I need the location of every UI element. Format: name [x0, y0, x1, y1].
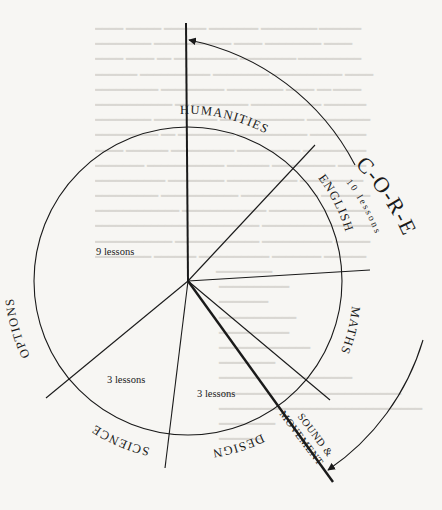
segment-label-sound-movement: SOUND & MOVEMENT — [277, 401, 336, 468]
core-arc-bottom — [328, 340, 423, 470]
divider-line-maths-sound — [188, 281, 330, 400]
divider-line-english-maths — [188, 270, 370, 281]
lessons-label-science: 3 lessons — [107, 374, 145, 385]
segment-label-design: DESIGN — [211, 431, 267, 460]
curriculum-wheel-diagram: HUMANITIES ENGLISH MATHS SOUND & MOVEMEN… — [0, 0, 442, 510]
segment-label-options: OPTIONS — [3, 297, 33, 361]
scanned-page: ━━━━ ━━━━━ ━━━━━━ ━━━━━━━ ━━━━━━━━ ━━━━━… — [0, 0, 442, 510]
lessons-label-options: 9 lessons — [96, 246, 134, 257]
lessons-label-design: 3 lessons — [197, 388, 235, 399]
divider-line-design-science — [165, 281, 188, 468]
divider-line-vertical — [186, 23, 188, 281]
segment-label-maths: MATHS — [338, 306, 363, 357]
core-arc-top — [189, 40, 355, 165]
divider-line-humanities-english — [188, 145, 315, 281]
